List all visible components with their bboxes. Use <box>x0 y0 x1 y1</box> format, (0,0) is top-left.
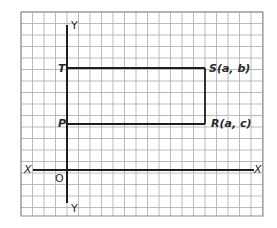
point-t-label: T <box>58 63 66 74</box>
grid-lines <box>21 12 263 216</box>
point-r-label: R(a, c) <box>211 118 251 129</box>
grid-border <box>21 12 263 216</box>
x-axis-label-right: X <box>254 164 262 175</box>
y-axis-label-bottom: Y <box>71 203 78 214</box>
coordinate-grid-figure <box>0 0 277 228</box>
origin-label: O <box>55 173 64 184</box>
point-p-label: P <box>58 118 66 129</box>
x-axis-label-left: X <box>24 164 32 175</box>
y-axis-label-top: Y <box>71 20 78 31</box>
point-s-label: S(a, b) <box>209 63 250 74</box>
